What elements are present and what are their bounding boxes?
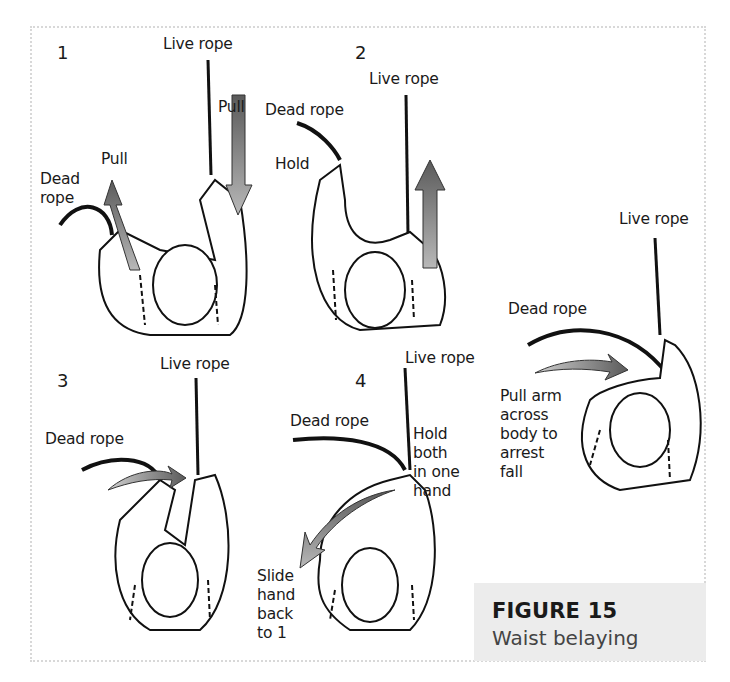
step-number-1: 1 [57,42,68,63]
step-number-3: 3 [57,370,68,391]
dead-rope-label: Dead rope [290,412,369,431]
live-rope-label: Live rope [405,349,475,368]
belaying-illustration [0,0,730,682]
dead-rope-label: Dead rope [45,430,124,449]
live-rope-label: Live rope [619,210,689,229]
figure-title: Waist belaying [492,626,639,650]
step-number-4: 4 [355,370,366,391]
slide-hand-label: Slide hand back to 1 [257,567,295,643]
live-rope-label: Live rope [160,355,230,374]
dead-rope-label: Dead rope [508,300,587,319]
figure-number: FIGURE 15 [492,599,617,623]
panel-2-figure [297,95,445,330]
live-rope-label: Live rope [163,35,233,54]
step-number-2: 2 [355,42,366,63]
figure-caption: FIGURE 15 Waist belaying [474,583,706,661]
hold-label: Hold [275,155,309,174]
hold-both-label: Hold both in one hand [413,425,460,501]
dead-rope-label: Dead rope [40,170,80,208]
dead-rope-label: Dead rope [265,101,344,120]
pull-arm-label: Pull arm across body to arrest fall [500,387,562,482]
pull-label: Pull [101,150,128,169]
pull-label: Pull [218,98,245,117]
live-rope-label: Live rope [369,70,439,89]
panel-3-figure [82,378,229,630]
